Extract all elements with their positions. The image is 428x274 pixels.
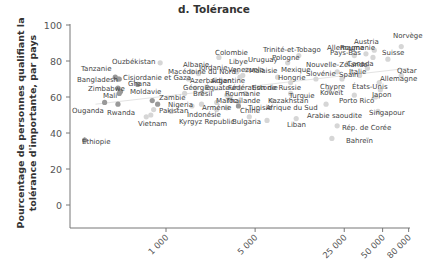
y-axis-label-line2: tolérance d'importante, par pays [27,34,38,211]
point-label: Chine [240,107,260,115]
data-point [144,114,149,119]
point-label: Moldavie [130,88,161,96]
data-point [115,102,120,107]
point-label: Hongrie [278,74,306,82]
data-point [323,102,328,107]
point-label: Arabie saoudite [307,112,362,120]
point-label: Suisse [382,49,404,57]
point-label: Rép. de Corée [342,124,391,132]
point-label: Norvège [393,32,423,40]
y-axis-label: Pourcentage de personnes qualifiant la t… [15,17,38,228]
data-point [148,112,153,117]
tolerance-scatter-chart: d. Tolérance Pourcentage de personnes qu… [0,0,428,274]
point-label: Tanzanie [80,65,112,73]
point-label: Arménie [202,104,231,112]
point-label: Allemagne [380,75,417,83]
point-label: Singapour [369,109,405,117]
x-tick-label: 1 000 [146,232,170,256]
data-point [264,118,269,123]
point-label: Slovénie [306,70,336,78]
point-labels: TanzanieBangladeshOuzbékistanCisjordanie… [72,32,423,146]
data-point [385,57,390,62]
point-label: Liban [287,121,306,129]
y-tick-label: 40 [50,128,62,139]
y-tick-label: 20 [50,164,62,175]
point-label: Afrique du Sud [266,104,318,112]
y-tick-label: 0 [56,200,62,211]
data-point [158,60,163,65]
x-tick-label: 5 000 [235,232,259,256]
point-label: Estonie [252,84,278,92]
y-tick-label: 60 [50,92,62,103]
chart-title: d. Tolérance [178,3,250,15]
point-label: Porto Rico [339,97,374,105]
x-tick-label: 50 000 [359,232,387,260]
point-label: Macédoine du Nord [168,68,236,76]
point-label: Koweït [320,89,344,97]
point-label: Malaisie [249,67,277,75]
point-label: Trinité-et-Tobago [262,46,321,54]
point-label: Bahreïn [346,137,373,145]
point-label: États-Unis [352,82,388,91]
point-label: Kyrgyz Republic [179,118,235,126]
point-label: Mali [103,92,117,100]
data-point [150,98,155,103]
point-label: Pologne [272,54,300,62]
point-label: Canada [347,60,374,68]
point-label: Colombie [215,49,248,57]
point-label: Italie [349,68,366,76]
data-point [151,107,156,112]
point-label: Éthiopie [82,137,111,146]
point-label: Qatar [397,67,417,75]
point-label: Ouzbékistan [112,58,156,66]
point-label: Bangladesh [77,76,118,84]
point-label: Vietnam [138,120,167,128]
data-point [329,136,334,141]
point-label: Pakistan [159,107,188,115]
x-tick-label: 80 000 [385,232,413,260]
point-label: Ouganda [72,107,104,115]
point-label: Rwanda [107,109,135,117]
point-label: Libye [229,58,248,66]
y-tick-label: 80 [50,56,62,67]
point-label: Brésil [193,90,212,98]
y-axis: 020406080100 [44,20,70,229]
point-label: Bulgaria [232,118,261,126]
data-point [335,123,340,128]
point-label: Ghana [128,80,151,88]
data-point [102,100,107,105]
x-tick-label: 25 000 [321,232,349,260]
point-label: Turquie [288,92,315,100]
point-label: Pays-Bas [330,49,361,57]
y-tick-label: 100 [44,20,62,31]
y-axis-label-line1: Pourcentage de personnes qualifiant la [15,17,26,228]
x-axis: 1 0005 00025 00050 00080 000 [70,228,413,260]
point-label: Japon [371,91,392,99]
